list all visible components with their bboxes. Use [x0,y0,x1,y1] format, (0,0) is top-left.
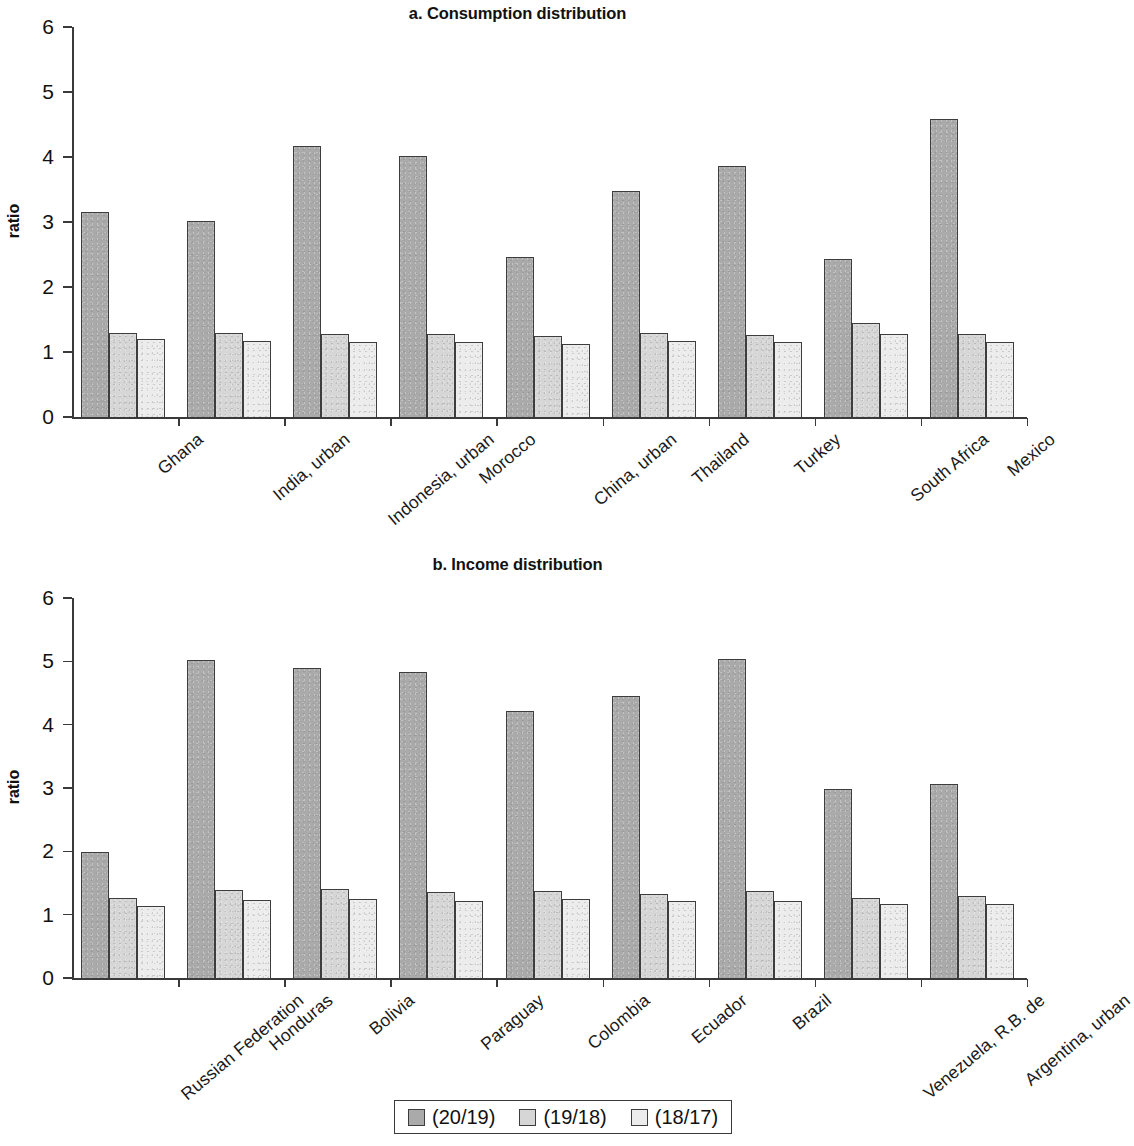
bar-mexico-series-0 [930,119,958,417]
y-axis-tick-label: 6 [26,16,54,37]
bar-honduras-series-2 [243,900,271,978]
bar-india-urban-series-1 [215,333,243,417]
bar-ghana-series-1 [109,333,137,418]
x-axis-label-turkey: Turkey [790,429,844,479]
bar-morocco-series-0 [399,156,427,417]
x-axis-tick [921,979,922,987]
legend-label-series-2: (18/17) [655,1107,718,1127]
x-axis-tick [709,979,710,987]
bar-argentina-urban-series-1 [958,896,986,978]
bar-bolivia-series-1 [321,889,349,978]
chart-b-title: b. Income distribution [0,555,1035,574]
bar-turkey-series-1 [746,335,774,417]
bar-ghana-series-2 [137,339,165,417]
y-axis-tick [63,914,72,916]
y-axis-tick-label: 1 [26,904,54,925]
x-axis-label-india-urban: India, urban [269,429,354,505]
x-axis-label-south-africa: South Africa [906,429,993,507]
bar-russian-federation-series-0 [81,852,109,978]
y-axis-tick-label: 0 [26,406,54,427]
bar-paraguay-series-1 [427,892,455,978]
x-axis-line [72,417,1027,419]
y-axis-title: ratio [5,191,23,251]
y-axis-tick [63,597,72,599]
y-axis-tick-label: 5 [26,650,54,671]
bar-honduras-series-1 [215,890,243,978]
bar-paraguay-series-2 [455,901,483,978]
bar-india-urban-series-0 [187,221,215,417]
legend-swatch-series-0 [408,1109,425,1126]
y-axis-line [72,598,74,979]
y-axis-tick-label: 1 [26,341,54,362]
y-axis-tick [63,91,72,93]
y-axis-tick [63,661,72,663]
x-axis-label-venezuela-r-b-de: Venezuela, R.B. de [919,990,1049,1104]
y-axis-tick-label: 6 [26,587,54,608]
x-axis-label-russian-federation: Russian Federation [177,990,308,1105]
y-axis-tick [63,977,72,979]
bar-brazil-series-0 [718,659,746,978]
legend-item-2: (18/17) [631,1107,718,1127]
bar-south-africa-series-2 [880,334,908,417]
chart-a-title: a. Consumption distribution [0,4,1035,23]
bar-china-urban-series-0 [506,257,534,417]
x-axis-tick [1027,979,1028,987]
bar-ecuador-series-0 [612,696,640,978]
bar-bolivia-series-0 [293,668,321,978]
bar-colombia-series-2 [562,899,590,978]
y-axis-tick [63,724,72,726]
bar-ecuador-series-2 [668,901,696,978]
bar-colombia-series-0 [506,711,534,978]
y-axis-tick [63,221,72,223]
y-axis-tick-label: 3 [26,211,54,232]
bar-indonesia-urban-series-0 [293,146,321,417]
x-axis-label-thailand: Thailand [688,429,754,489]
chart-legend: (20/19) (19/18) (18/17) [394,1100,732,1134]
bar-bolivia-series-2 [349,899,377,978]
y-axis-tick-label: 4 [26,146,54,167]
bar-russian-federation-series-2 [137,906,165,978]
bar-turkey-series-0 [718,166,746,417]
y-axis-tick-label: 3 [26,777,54,798]
bar-indonesia-urban-series-1 [321,334,349,417]
y-axis-tick [63,286,72,288]
bar-paraguay-series-0 [399,672,427,978]
x-axis-label-ecuador: Ecuador [687,990,751,1048]
x-axis-tick [815,418,816,426]
x-axis-tick [496,979,497,987]
y-axis-line [72,27,74,418]
legend-swatch-series-2 [631,1109,648,1126]
bar-argentina-urban-series-2 [986,904,1014,978]
legend-label-series-0: (20/19) [432,1107,495,1127]
y-axis-tick-label: 2 [26,840,54,861]
bar-brazil-series-2 [774,901,802,978]
x-axis-tick [284,979,285,987]
x-axis-tick [815,979,816,987]
x-axis-label-ghana: Ghana [153,429,207,479]
chart-b-plot-area: 0123456ratioRussian FederationHondurasBo… [0,574,1035,1114]
y-axis-tick-label: 4 [26,714,54,735]
x-axis-tick [284,418,285,426]
legend-label-series-1: (19/18) [543,1107,606,1127]
x-axis-tick [921,418,922,426]
legend-item-0: (20/19) [408,1107,495,1127]
x-axis-tick [603,418,604,426]
bar-ghana-series-0 [81,212,109,417]
x-axis-label-brazil: Brazil [788,990,835,1035]
x-axis-line [72,978,1027,980]
bar-ecuador-series-1 [640,894,668,978]
y-axis-tick [63,787,72,789]
x-axis-label-paraguay: Paraguay [477,990,549,1055]
x-axis-label-china-urban: China, urban [589,429,680,510]
bar-russian-federation-series-1 [109,898,137,978]
x-axis-tick [709,418,710,426]
chart-a-plot-area: 0123456ratioGhanaIndia, urbanIndonesia, … [0,23,1035,548]
x-axis-tick [390,418,391,426]
x-axis-tick [178,979,179,987]
x-axis-label-mexico: Mexico [1003,429,1059,481]
y-axis-tick [63,26,72,28]
bar-turkey-series-2 [774,342,802,417]
y-axis-tick [63,416,72,418]
bar-morocco-series-1 [427,334,455,417]
y-axis-tick [63,351,72,353]
